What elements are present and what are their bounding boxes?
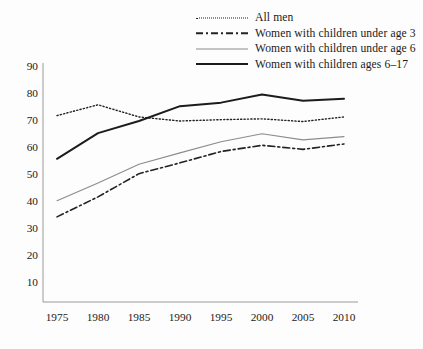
- y-tick-label: 40: [16, 196, 38, 207]
- series-line-women-under-3: [57, 144, 344, 217]
- x-tick-label: 1975: [37, 312, 77, 323]
- y-tick-label: 30: [16, 223, 38, 234]
- y-tick-label: 70: [16, 115, 38, 126]
- y-tick-label: 20: [16, 250, 38, 261]
- x-tick-label: 2000: [242, 312, 282, 323]
- x-tick-label: 1980: [78, 312, 118, 323]
- y-tick-label: 50: [16, 169, 38, 180]
- x-tick-label: 1985: [119, 312, 159, 323]
- plot-area: 102030405060708090 197519801985199019952…: [0, 0, 423, 349]
- line-chart: All men Women with children under age 3 …: [0, 0, 423, 349]
- x-tick-label: 2010: [324, 312, 364, 323]
- x-tick-label: 2005: [283, 312, 323, 323]
- y-tick-label: 10: [16, 277, 38, 288]
- plot-svg: [0, 0, 423, 349]
- series-line-women-under-6: [57, 134, 344, 201]
- y-tick-label: 80: [16, 88, 38, 99]
- series-line-all-men: [57, 105, 344, 122]
- x-tick-label: 1990: [160, 312, 200, 323]
- y-tick-label: 60: [16, 142, 38, 153]
- x-tick-label: 1995: [201, 312, 241, 323]
- y-tick-label: 90: [16, 61, 38, 72]
